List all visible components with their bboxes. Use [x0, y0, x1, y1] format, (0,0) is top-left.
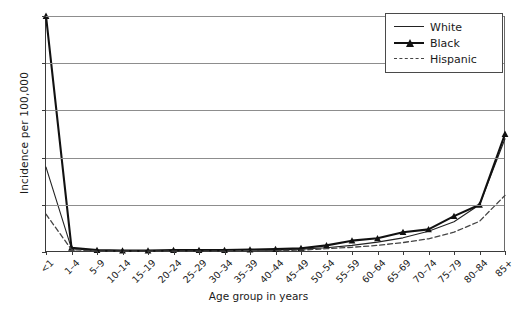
- chart-figure: Incidence per 100,000 01020304050 <11–45…: [0, 0, 517, 312]
- legend-label-white: White: [426, 21, 462, 34]
- y-tick-mark: [42, 63, 46, 64]
- gridline: [46, 110, 504, 111]
- x-tick-label: 85+: [507, 243, 517, 265]
- x-tick-mark: [378, 251, 379, 255]
- x-tick-mark: [276, 251, 277, 255]
- x-tick-mark: [352, 251, 353, 255]
- gridline: [46, 158, 504, 159]
- legend-label-hispanic: Hispanic: [426, 53, 477, 66]
- x-tick-mark: [174, 251, 175, 255]
- x-tick-mark: [199, 251, 200, 255]
- data-point-marker: [502, 131, 509, 137]
- x-tick-mark: [72, 251, 73, 255]
- y-tick-mark: [42, 205, 46, 206]
- x-tick-mark: [480, 251, 481, 255]
- x-tick-mark: [505, 251, 506, 255]
- x-tick-mark: [123, 251, 124, 255]
- x-tick-mark: [429, 251, 430, 255]
- legend-swatch-white-icon: [392, 21, 426, 33]
- y-tick-mark: [42, 158, 46, 159]
- y-tick-mark: [42, 16, 46, 17]
- x-tick-mark: [327, 251, 328, 255]
- legend-item-hispanic: Hispanic: [392, 51, 496, 67]
- x-tick-mark: [301, 251, 302, 255]
- x-tick-mark: [250, 251, 251, 255]
- gridline: [46, 205, 504, 206]
- x-tick-mark: [454, 251, 455, 255]
- y-tick-mark: [42, 110, 46, 111]
- legend-swatch-black-icon: [392, 37, 426, 49]
- y-axis-title: Incidence per 100,000: [18, 33, 30, 233]
- x-axis-title: Age group in years: [0, 290, 517, 302]
- legend-item-white: White: [392, 19, 496, 35]
- x-tick-mark: [148, 251, 149, 255]
- legend-swatch-hispanic-icon: [392, 53, 426, 65]
- x-tick-mark: [46, 251, 47, 255]
- legend-item-black: Black: [392, 35, 496, 51]
- x-tick-mark: [403, 251, 404, 255]
- series-line-white: [46, 139, 505, 251]
- legend-label-black: Black: [426, 37, 460, 50]
- x-tick-mark: [97, 251, 98, 255]
- x-tick-mark: [225, 251, 226, 255]
- triangle-marker-icon: [406, 39, 414, 47]
- chart-legend: White Black Hispanic: [385, 13, 503, 73]
